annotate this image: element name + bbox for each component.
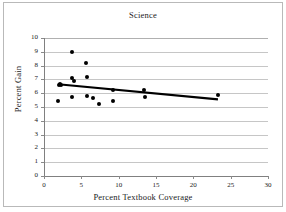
x-tick-label: 5 <box>69 181 93 189</box>
y-tick <box>41 162 44 163</box>
y-tick <box>41 107 44 108</box>
y-tick-label: 0 <box>18 171 38 179</box>
y-axis-label: Percent Gain <box>13 29 23 149</box>
x-tick <box>193 176 194 179</box>
x-tick <box>44 176 45 179</box>
trendline <box>44 38 268 176</box>
x-tick <box>268 176 269 179</box>
y-tick <box>41 176 44 177</box>
x-tick <box>231 176 232 179</box>
x-tick <box>156 176 157 179</box>
y-tick <box>41 79 44 80</box>
chart-figure: Science 051015202530 012345678910 Percen… <box>0 0 286 212</box>
x-axis-label: Percent Textbook Coverage <box>0 192 286 202</box>
y-tick <box>41 52 44 53</box>
y-tick <box>41 135 44 136</box>
x-tick-label: 10 <box>107 181 131 189</box>
y-axis-line <box>44 38 45 177</box>
y-tick <box>41 93 44 94</box>
y-tick <box>41 38 44 39</box>
x-tick <box>81 176 82 179</box>
y-tick-label: 1 <box>18 157 38 165</box>
x-tick-label: 20 <box>181 181 205 189</box>
chart-title: Science <box>0 10 286 20</box>
x-tick-label: 15 <box>144 181 168 189</box>
y-tick <box>41 66 44 67</box>
x-tick-label: 30 <box>256 181 280 189</box>
x-tick <box>119 176 120 179</box>
x-tick-label: 0 <box>32 181 56 189</box>
y-tick <box>41 121 44 122</box>
y-tick <box>41 148 44 149</box>
x-tick-label: 25 <box>219 181 243 189</box>
